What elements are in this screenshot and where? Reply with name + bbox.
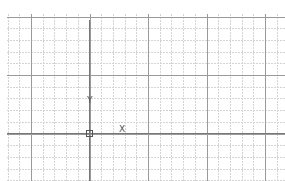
grid — [0, 0, 285, 181]
ucs-y-label: Y — [87, 96, 93, 105]
drawing-canvas[interactable]: Y X — [0, 0, 285, 181]
ucs-x-label: X — [119, 125, 125, 134]
ucs-icon — [7, 20, 285, 181]
